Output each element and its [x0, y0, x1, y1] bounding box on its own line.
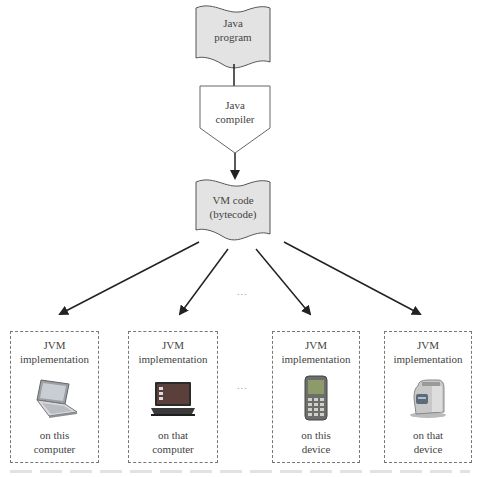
- mobile-phone-icon: [303, 374, 329, 426]
- jvm-box-title: JVM implementation: [385, 338, 471, 366]
- laptop-icon: [31, 378, 79, 424]
- jvm-box-title: JVM implementation: [273, 338, 359, 366]
- jvm-box-this-computer: JVM implementation on this computer: [10, 331, 99, 463]
- jvm-box-that-computer: JVM implementation on that computer: [128, 331, 218, 463]
- jvm-box-caption: on this computer: [11, 428, 98, 456]
- notebook-computer-icon: [151, 380, 195, 422]
- java-compiler-label: Java compiler: [200, 98, 270, 126]
- edge-bytecode-to-target-2: [180, 249, 228, 314]
- edge-bytecode-to-target-4: [284, 242, 420, 314]
- jvm-box-that-device: JVM implementation on that device: [384, 331, 472, 463]
- jvm-box-caption: on that computer: [129, 428, 217, 456]
- java-program-label: Java program: [196, 16, 270, 44]
- jvm-box-this-device: JVM implementation on this device: [272, 331, 360, 463]
- jvm-box-title: JVM implementation: [129, 338, 217, 366]
- clipped-caption-fragment: [10, 470, 470, 473]
- ellipsis-arrows: ...: [237, 286, 248, 297]
- bytecode-label: VM code (bytecode): [196, 193, 270, 221]
- edge-bytecode-to-target-3: [256, 249, 310, 314]
- toaster-icon: [408, 378, 448, 422]
- jvm-box-caption: on this device: [273, 428, 359, 456]
- jvm-box-title: JVM implementation: [11, 338, 98, 366]
- edge-bytecode-to-target-1: [60, 242, 199, 314]
- ellipsis-boxes: ...: [237, 380, 248, 391]
- jvm-box-caption: on that device: [385, 428, 471, 456]
